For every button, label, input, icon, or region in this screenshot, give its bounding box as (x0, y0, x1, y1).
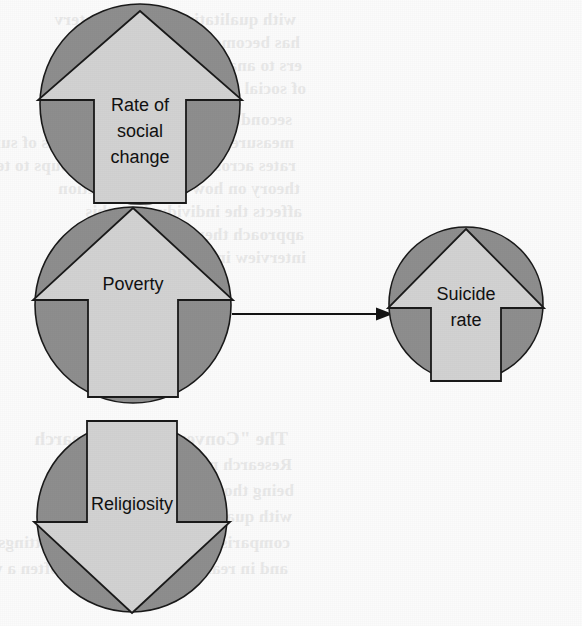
node-suicide-rate[interactable]: Suiciderate (388, 227, 544, 381)
node-label-line: change (110, 147, 169, 167)
node-poverty[interactable]: Poverty (33, 207, 233, 403)
node-label-religiosity: Religiosity (91, 494, 173, 514)
connector-poverty-to-suicide-rate (232, 308, 393, 321)
node-religiosity[interactable]: Religiosity (34, 421, 230, 613)
node-label-rate-of-social-change: Rate ofsocialchange (110, 95, 170, 167)
causal-diagram-figure: with qualitative research, intervhas bec… (0, 0, 582, 626)
node-label-line: Suicide (436, 284, 495, 304)
node-rate-of-social-change[interactable]: Rate ofsocialchange (38, 4, 242, 204)
node-label-line: Religiosity (91, 494, 173, 514)
node-label-line: Rate of (111, 95, 170, 115)
node-label-poverty: Poverty (102, 274, 163, 294)
node-label-line: social (117, 121, 163, 141)
node-label-line: rate (450, 310, 481, 330)
diagram-canvas: Rate ofsocialchange Poverty Religiosity … (0, 0, 582, 626)
node-label-line: Poverty (102, 274, 163, 294)
